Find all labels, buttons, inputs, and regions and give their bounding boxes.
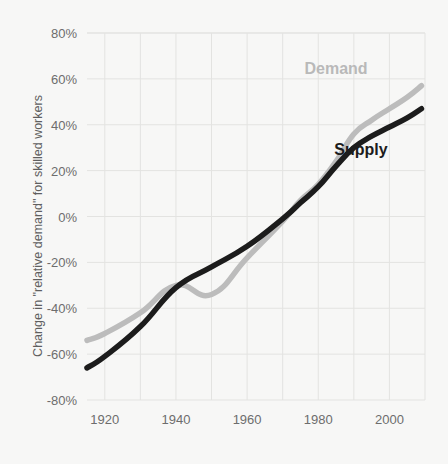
line-chart: 80%60%40%20%0%-20%-40%-60%-80% 192019401…: [0, 0, 448, 464]
x-axis-tick-label: 1960: [233, 412, 262, 427]
series-lines: [87, 86, 421, 368]
x-axis-tick-label: 2000: [375, 412, 404, 427]
y-axis-tick-label: 40%: [51, 118, 77, 133]
series-label-demand: Demand: [304, 60, 367, 77]
x-axis-tick-labels: 19201940196019802000: [90, 412, 404, 427]
series-line-demand: [87, 86, 421, 341]
series-annotations: DemandSupply: [304, 60, 387, 157]
y-axis-tick-label: -60%: [47, 347, 78, 362]
chart-container: 80%60%40%20%0%-20%-40%-60%-80% 192019401…: [0, 0, 448, 464]
x-axis-tick-label: 1980: [304, 412, 333, 427]
y-axis-tick-label: 60%: [51, 72, 77, 87]
y-axis-tick-label: -80%: [47, 393, 78, 408]
x-axis-tick-label: 1920: [90, 412, 119, 427]
y-axis-tick-label: 20%: [51, 164, 77, 179]
y-axis-tick-labels: 80%60%40%20%0%-20%-40%-60%-80%: [47, 26, 78, 408]
y-axis-tick-label: 80%: [51, 26, 77, 41]
y-axis-title: Change in "relative demand" for skilled …: [31, 95, 45, 357]
x-axis-tick-label: 1940: [161, 412, 190, 427]
y-axis-tick-label: -40%: [47, 301, 78, 316]
y-axis-tick-label: -20%: [47, 255, 78, 270]
horizontal-gridlines: [87, 33, 425, 400]
series-label-supply: Supply: [334, 141, 387, 158]
y-axis-tick-label: 0%: [58, 210, 77, 225]
